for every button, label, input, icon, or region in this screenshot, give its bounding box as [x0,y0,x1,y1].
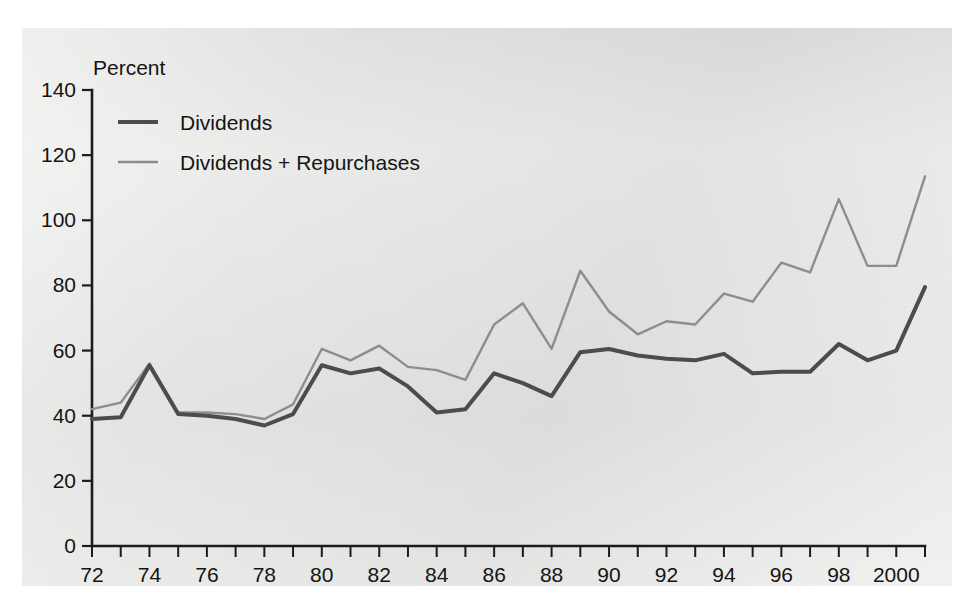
x-axis-tick-label: 2000 [873,563,920,586]
line-chart: Percent 020406080100120140 7274767880828… [0,0,973,608]
legend-label-dividends-plus-repurchases: Dividends + Repurchases [180,151,420,174]
x-axis-tick-label: 82 [368,563,391,586]
x-axis-tick-labels: 72747678808284868890929496982000 [80,563,919,586]
legend-label-dividends: Dividends [180,111,272,134]
y-axis-unit-label-group: Percent [93,56,166,79]
y-axis-tick-label: 100 [41,208,76,231]
x-axis-tick-label: 80 [310,563,333,586]
x-axis-tick-label: 78 [253,563,276,586]
x-axis-tick-label: 94 [712,563,736,586]
y-axis-unit-label: Percent [93,56,166,79]
x-axis-tick-label: 98 [827,563,850,586]
y-axis-tick-label: 60 [53,339,76,362]
y-axis-tick-label: 20 [53,469,76,492]
y-axis-tick-label: 80 [53,273,76,296]
x-axis-tick-label: 90 [597,563,620,586]
y-axis-tick-label: 0 [64,534,76,557]
y-axis-tick-label: 120 [41,143,76,166]
y-axis-ticks [82,90,92,546]
x-axis-tick-label: 86 [482,563,505,586]
x-axis-tick-label: 88 [540,563,563,586]
x-axis-tick-label: 76 [195,563,218,586]
x-axis-tick-label: 74 [138,563,162,586]
x-axis-tick-label: 92 [655,563,678,586]
chart-series-group [92,176,925,425]
y-axis-tick-label: 40 [53,404,76,427]
figure-page: Percent 020406080100120140 7274767880828… [0,0,973,608]
chart-legend: DividendsDividends + Repurchases [118,111,420,174]
x-axis-tick-label: 84 [425,563,449,586]
x-axis-ticks [92,546,925,557]
series-line-dividends-repurchases [92,176,925,419]
y-axis-tick-labels: 020406080100120140 [41,78,76,557]
x-axis-tick-label: 72 [80,563,103,586]
series-line-dividends [92,287,925,425]
y-axis-tick-label: 140 [41,78,76,101]
x-axis-tick-label: 96 [770,563,793,586]
